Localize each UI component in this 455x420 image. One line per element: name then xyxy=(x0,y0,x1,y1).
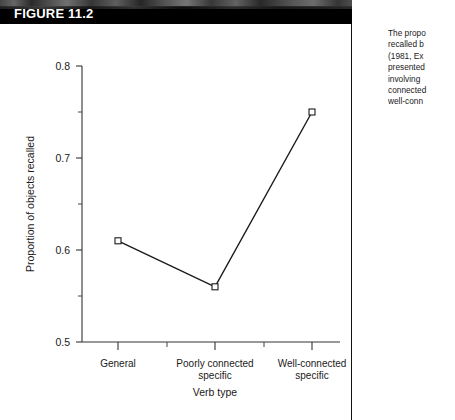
x-tick-label-general: General xyxy=(100,358,136,369)
data-series-markers xyxy=(115,109,315,290)
y-tick-label-0: 0.8 xyxy=(55,60,70,72)
x-tick-label-poorly-connected-line1: Poorly connected xyxy=(176,358,253,369)
caption-line: well-conn xyxy=(388,96,455,107)
caption-line: (1981, Ex xyxy=(388,51,455,62)
data-point-marker xyxy=(212,284,218,290)
chart-canvas: 0.8 0.7 0.6 0.5 Proportion of objects re… xyxy=(0,24,352,420)
x-tick-label-well-connected-line1: Well-connected xyxy=(278,358,347,369)
figure-banner: FIGURE 11.2 xyxy=(0,0,352,24)
data-series-line xyxy=(118,112,312,287)
y-axis-minor-ticks xyxy=(78,112,82,296)
y-tick-label-1: 0.7 xyxy=(55,152,70,164)
figure-caption-text: The propo recalled b (1981, Ex presented… xyxy=(388,28,455,108)
caption-line: recalled b xyxy=(388,39,455,50)
figure-number-label: FIGURE 11.2 xyxy=(14,5,94,22)
data-point-marker xyxy=(115,238,121,244)
line-chart: 0.8 0.7 0.6 0.5 Proportion of objects re… xyxy=(0,24,352,420)
caption-line: connected xyxy=(388,85,455,96)
x-axis-ticks xyxy=(118,342,312,350)
data-point-marker xyxy=(309,109,315,115)
y-axis-title: Proportion of objects recalled xyxy=(24,136,36,272)
caption-line: presented xyxy=(388,62,455,73)
x-tick-label-well-connected-line2: specific xyxy=(295,370,328,381)
y-tick-label-2: 0.6 xyxy=(55,244,70,256)
caption-line: The propo xyxy=(388,28,455,39)
x-axis-title: Verb type xyxy=(193,386,238,398)
caption-line: involving xyxy=(388,74,455,85)
x-tick-label-poorly-connected-line2: specific xyxy=(198,370,231,381)
y-tick-label-3: 0.5 xyxy=(55,336,70,348)
